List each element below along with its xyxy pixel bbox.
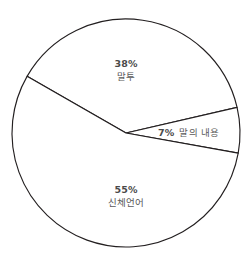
pie-label-content-name: 말의 내용	[179, 127, 219, 138]
pie-label-body-language-value: 55%	[89, 184, 163, 197]
pie-label-body-language: 55% 신체언어	[89, 184, 163, 209]
pie-label-maltu: 38% 말투	[89, 58, 163, 83]
pie-chart: 38% 말투 7% 말의 내용 55% 신체언어	[0, 0, 250, 261]
pie-label-body-language-name: 신체언어	[89, 197, 163, 210]
pie-label-maltu-value: 38%	[89, 58, 163, 71]
pie-label-content-value: 7%	[158, 127, 174, 138]
pie-label-maltu-name: 말투	[89, 71, 163, 84]
pie-label-content: 7% 말의 내용	[158, 127, 238, 140]
